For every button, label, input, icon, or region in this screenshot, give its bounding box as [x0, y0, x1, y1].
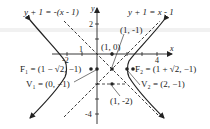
- x-axis-label: x: [169, 44, 174, 53]
- label-center: (1, -1): [120, 25, 143, 35]
- label-v1: V₁ = (0, −1): [26, 79, 70, 89]
- y-axis-label: y: [90, 4, 95, 13]
- vertex-v2: [125, 67, 129, 71]
- x-tick-1: 1: [79, 45, 83, 54]
- label-v2: V₂ = (2, −1): [141, 79, 185, 89]
- y-tick-2: 2: [89, 20, 93, 29]
- label-f1: F₁ = (1 − √2, −1): [20, 64, 81, 74]
- points: [89, 52, 135, 86]
- point-1-0: [110, 52, 114, 56]
- focus-f1: [89, 67, 93, 71]
- label-f2: F₂ = (1 + √2, −1): [135, 64, 196, 74]
- hyperbola-diagram: -2 1 4 x 2 -4 y y + 1 = -(x - 1) y + 1 =…: [0, 0, 210, 129]
- center-point: [110, 67, 114, 71]
- y-tick-neg4: -4: [85, 110, 92, 119]
- label-1-neg2: (1, -2): [110, 96, 133, 106]
- y-axis: 2 -4 y: [85, 4, 99, 124]
- asymptote-label-left: y + 1 = -(x - 1): [23, 7, 79, 17]
- label-1-0: (1, 0): [101, 42, 121, 52]
- point-1-neg2: [110, 82, 114, 86]
- asymptote-label-right: y + 1 = x - 1: [127, 7, 174, 17]
